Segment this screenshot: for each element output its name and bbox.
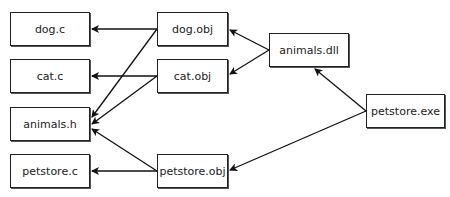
- node-petstore-exe: petstore.exe: [366, 94, 445, 128]
- node-label: cat.obj: [174, 70, 211, 83]
- node-dog-c: dog.c: [10, 12, 90, 46]
- node-dog-obj: dog.obj: [157, 12, 228, 46]
- edge-animalsdll-catobj: [230, 50, 269, 74]
- node-label: petstore.exe: [371, 105, 440, 118]
- node-cat-obj: cat.obj: [157, 59, 228, 93]
- node-animals-dll: animals.dll: [269, 33, 349, 67]
- edge-dogobj-animalsh: [92, 29, 157, 117]
- node-cat-c: cat.c: [10, 59, 90, 93]
- node-label: petstore.c: [22, 165, 77, 178]
- edge-petstoreobj-animalsh: [92, 129, 157, 171]
- node-label: cat.c: [37, 70, 64, 83]
- edge-catobj-animalsh: [92, 76, 157, 124]
- edge-petstoreexe-animalsdll: [315, 69, 366, 111]
- node-animals-h: animals.h: [10, 107, 90, 141]
- edge-petstoreexe-petstoreobj: [230, 111, 366, 170]
- node-label: animals.dll: [279, 44, 339, 57]
- node-label: petstore.obj: [159, 165, 225, 178]
- node-petstore-c: petstore.c: [10, 154, 90, 188]
- node-label: dog.obj: [172, 23, 213, 36]
- node-label: animals.h: [23, 118, 76, 131]
- node-petstore-obj: petstore.obj: [157, 154, 228, 188]
- node-label: dog.c: [35, 23, 65, 36]
- edge-animalsdll-dogobj: [230, 30, 269, 50]
